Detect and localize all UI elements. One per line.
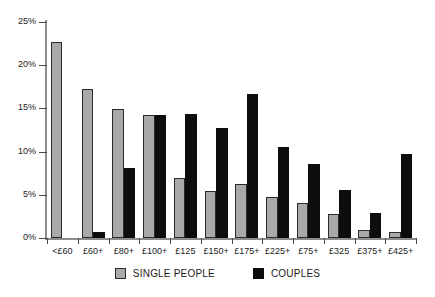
y-axis-tick-label: 5% xyxy=(0,190,36,199)
y-axis-tick xyxy=(39,238,47,239)
bar xyxy=(155,115,167,238)
bar xyxy=(216,128,228,238)
bar xyxy=(278,147,290,238)
y-axis-tick xyxy=(39,152,47,153)
legend-item: SINGLE PEOPLE xyxy=(115,268,215,279)
y-axis-tick-label: 20% xyxy=(0,60,36,69)
y-axis-tick-label: 25% xyxy=(0,17,36,26)
x-axis-tick xyxy=(78,238,79,244)
x-axis-tick xyxy=(262,238,263,244)
bar xyxy=(297,203,309,238)
legend-item-label: COUPLES xyxy=(271,268,320,279)
legend-item: COUPLES xyxy=(253,268,320,279)
y-axis-tick xyxy=(39,65,47,66)
x-axis-tick xyxy=(201,238,202,244)
legend-item-label: SINGLE PEOPLE xyxy=(133,268,215,279)
y-axis-tick xyxy=(39,22,47,23)
bar xyxy=(82,89,94,238)
bar xyxy=(235,184,247,238)
y-axis-tick-label: 0% xyxy=(0,233,36,242)
bar xyxy=(328,214,340,238)
y-axis-tick xyxy=(39,195,47,196)
bar xyxy=(370,213,382,238)
bar xyxy=(112,109,124,238)
bar xyxy=(339,190,351,238)
bar xyxy=(185,114,197,238)
legend-swatch-icon xyxy=(253,268,264,279)
x-axis-tick xyxy=(416,238,417,244)
bar xyxy=(143,115,155,238)
bar xyxy=(174,178,186,238)
y-axis-tick-label: 10% xyxy=(0,147,36,156)
bar xyxy=(124,168,136,238)
bar xyxy=(358,230,370,238)
legend-swatch-icon xyxy=(115,268,126,279)
x-axis-tick xyxy=(232,238,233,244)
bar xyxy=(51,42,63,238)
bar xyxy=(247,94,259,238)
bar xyxy=(389,232,401,238)
y-axis-tick xyxy=(39,108,47,109)
x-axis-tick xyxy=(139,238,140,244)
bar xyxy=(205,191,217,238)
y-axis-tick-label: 15% xyxy=(0,103,36,112)
x-axis-tick xyxy=(170,238,171,244)
plot-area xyxy=(47,22,415,238)
bar xyxy=(266,197,278,238)
x-axis-tick xyxy=(293,238,294,244)
x-axis-tick xyxy=(385,238,386,244)
bar xyxy=(401,154,413,238)
bar xyxy=(308,164,320,238)
x-axis-tick xyxy=(47,238,48,244)
x-axis-tick xyxy=(324,238,325,244)
bar-chart: 25%20%15%10%5%0% <£60£60+£80+£100+£125£1… xyxy=(0,0,435,297)
x-axis-tick xyxy=(109,238,110,244)
x-axis-tick-label: £425+ xyxy=(379,246,422,256)
bar xyxy=(93,232,105,238)
x-axis-tick xyxy=(355,238,356,244)
chart-legend: SINGLE PEOPLECOUPLES xyxy=(0,268,435,279)
